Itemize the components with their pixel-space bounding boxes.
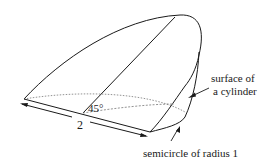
dimension-arrow-left	[22, 104, 72, 117]
wedge-diagram: 2 45° surface of a cylinder semicircle o…	[0, 0, 275, 163]
front-curve	[150, 86, 185, 132]
surface-pointer-arrowhead-icon	[188, 93, 196, 99]
semicircle-back-dotted	[24, 94, 185, 112]
arrowhead-right-icon	[140, 133, 148, 137]
length-label: 2	[77, 118, 83, 132]
arrowhead-left-icon	[20, 103, 28, 107]
diameter-line	[24, 99, 150, 132]
semicircle-label: semicircle of radius 1	[143, 147, 238, 159]
surface-label-line2: a cylinder	[213, 85, 257, 97]
cross-section-line	[83, 17, 175, 113]
top-elliptical-edge	[24, 15, 201, 99]
angle-label: 45°	[88, 102, 103, 114]
surface-label-line1: surface of	[211, 72, 255, 84]
